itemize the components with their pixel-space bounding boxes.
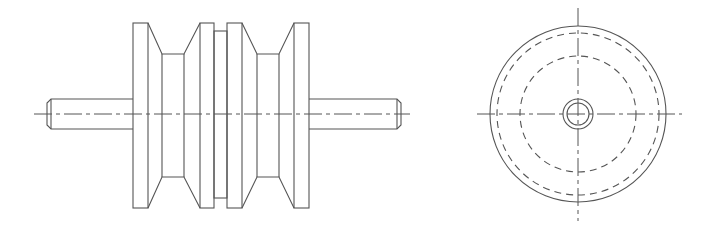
groove-2-top	[242, 23, 294, 54]
side-view	[477, 8, 682, 221]
flange-1	[133, 23, 148, 208]
front-view	[34, 23, 410, 208]
flange-4	[294, 23, 309, 208]
technical-drawing	[0, 0, 714, 234]
flange-2	[200, 23, 214, 208]
groove-1-bottom	[148, 177, 200, 208]
flange-3	[227, 23, 242, 208]
groove-1-top	[148, 23, 200, 54]
groove-2-bottom	[242, 177, 294, 208]
